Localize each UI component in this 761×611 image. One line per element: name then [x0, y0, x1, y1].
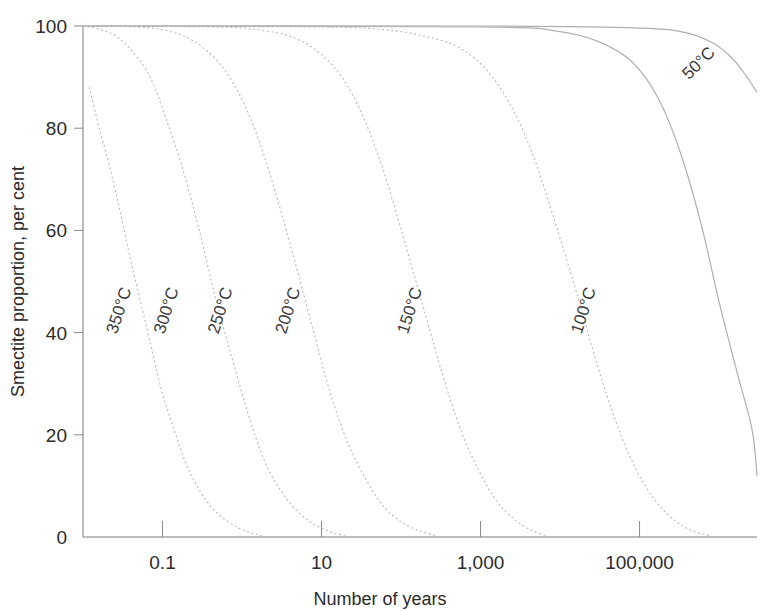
chart-figure: 020406080100 0.1101,000100,000 350°C300°…	[0, 0, 761, 611]
y-tick-label: 0	[56, 527, 67, 548]
curve-label-250c: 250°C	[204, 285, 237, 336]
y-axis-ticks: 020406080100	[35, 16, 83, 548]
x-tick-label: 10	[311, 552, 332, 573]
y-tick-label: 20	[46, 425, 67, 446]
y-axis-title: Smectite proportion, per cent	[8, 166, 28, 397]
smectite-illitization-chart: 020406080100 0.1101,000100,000 350°C300°…	[0, 0, 761, 611]
curve-label-50c: 50°C	[679, 43, 719, 83]
y-tick-label: 80	[46, 118, 67, 139]
x-tick-label: 1,000	[457, 552, 505, 573]
curve-label-300c: 300°C	[150, 285, 183, 336]
curve-labels-group: 350°C300°C250°C200°C150°C100°C50°C	[103, 43, 719, 336]
curve-label-150c: 150°C	[393, 285, 426, 336]
curve-label-350c: 350°C	[103, 285, 136, 336]
curve-300c	[83, 26, 345, 536]
y-tick-label: 100	[35, 16, 67, 37]
curve-series-group	[83, 26, 757, 536]
curve-label-200c: 200°C	[272, 285, 305, 336]
y-tick-label: 40	[46, 323, 67, 344]
plot-axes	[83, 26, 757, 537]
y-tick-label: 60	[46, 220, 67, 241]
x-tick-label: 0.1	[149, 552, 175, 573]
curve-150c	[83, 26, 711, 536]
x-tick-label: 100,000	[605, 552, 674, 573]
curve-100c	[83, 26, 757, 476]
curve-label-100c: 100°C	[567, 285, 600, 336]
x-axis-ticks: 0.1101,000100,000	[149, 521, 674, 573]
curve-200c	[83, 26, 548, 536]
x-axis-title: Number of years	[313, 589, 446, 609]
